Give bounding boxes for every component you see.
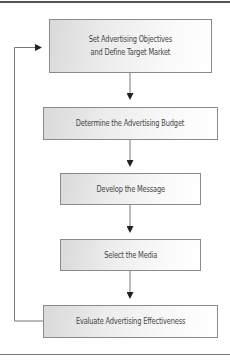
bottom-rule [0,354,230,355]
step-develop-message-label: Develop the Message [96,183,164,196]
step-set-objectives: Set Advertising Objectives and Define Ta… [49,19,212,73]
step-determine-budget: Determine the Advertising Budget [43,107,218,140]
step-evaluate-effectiveness-label: Evaluate Advertising Effectiveness [76,315,185,328]
step-set-objectives-line2: and Define Target Market [89,46,172,59]
step-set-objectives-line1: Set Advertising Objectives [89,33,172,46]
step-select-media-label: Select the Media [104,249,157,262]
step-select-media: Select the Media [60,239,201,271]
step-determine-budget-label: Determine the Advertising Budget [76,117,184,130]
feedback-loop-arrow [15,48,44,322]
step-evaluate-effectiveness: Evaluate Advertising Effectiveness [43,305,218,338]
step-develop-message: Develop the Message [60,173,201,205]
